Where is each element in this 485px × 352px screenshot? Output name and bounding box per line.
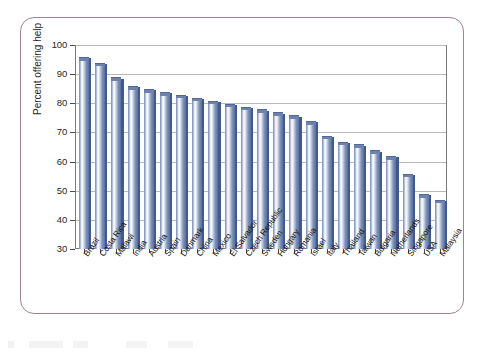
bar-side-face xyxy=(186,96,188,249)
y-axis-tick-label: 30 xyxy=(37,244,67,254)
bar-top-face xyxy=(257,109,267,113)
bar-side-face xyxy=(154,90,156,249)
caption-smudge xyxy=(8,341,218,348)
bar-top-face xyxy=(419,194,429,198)
bar-top-face xyxy=(338,142,348,146)
bar-top-face xyxy=(176,95,186,99)
bar-top-face xyxy=(273,112,283,116)
bar-top-face xyxy=(208,101,218,105)
bar-top-face xyxy=(79,57,89,61)
bar-side-face xyxy=(332,137,334,249)
bar-top-face xyxy=(289,115,299,119)
bar xyxy=(79,60,89,249)
bar-side-face xyxy=(396,157,398,249)
y-axis-tick-label: 60 xyxy=(37,157,67,167)
bar-top-face xyxy=(386,156,396,160)
bar-side-face xyxy=(348,143,350,249)
bar-series xyxy=(75,45,447,249)
bar-top-face xyxy=(111,77,121,81)
bar-top-face xyxy=(95,63,105,67)
bar-top-face xyxy=(322,136,332,140)
y-axis-tick-mark xyxy=(70,249,75,250)
bar-side-face xyxy=(235,105,237,249)
bar xyxy=(160,95,170,249)
bar xyxy=(322,138,332,249)
bar-top-face xyxy=(403,174,413,178)
bar-side-face xyxy=(105,64,107,249)
bar-side-face xyxy=(170,93,172,249)
y-axis-tick-label: 70 xyxy=(37,127,67,137)
bar xyxy=(225,106,235,249)
bar-top-face xyxy=(241,107,251,111)
y-axis-tick-label: 80 xyxy=(37,98,67,108)
bar-side-face xyxy=(380,152,382,249)
bar-side-face xyxy=(138,87,140,249)
y-axis-tick-label: 90 xyxy=(37,69,67,79)
bar xyxy=(144,92,154,249)
bar xyxy=(128,89,138,249)
bar-top-face xyxy=(192,98,202,102)
y-axis-tick-label: 40 xyxy=(37,215,67,225)
bar-side-face xyxy=(283,114,285,249)
bar-top-face xyxy=(160,92,170,96)
bar-top-face xyxy=(370,150,380,154)
bar-side-face xyxy=(218,102,220,249)
bar xyxy=(208,103,218,249)
y-axis-tick-label: 50 xyxy=(37,186,67,196)
bar-top-face xyxy=(306,121,316,125)
bar-side-face xyxy=(202,99,204,249)
bar xyxy=(338,144,348,249)
bar xyxy=(95,65,105,249)
bar-side-face xyxy=(89,58,91,249)
bar-top-face xyxy=(354,144,364,148)
y-axis-tick-label: 100 xyxy=(37,40,67,50)
bar-top-face xyxy=(128,86,138,90)
bar-top-face xyxy=(435,200,445,204)
bar-chart: Percent offering help 30405060708090100 … xyxy=(0,0,485,352)
bar-top-face xyxy=(225,104,235,108)
bar-side-face xyxy=(299,117,301,249)
bar-top-face xyxy=(144,89,154,93)
bar xyxy=(176,97,186,249)
